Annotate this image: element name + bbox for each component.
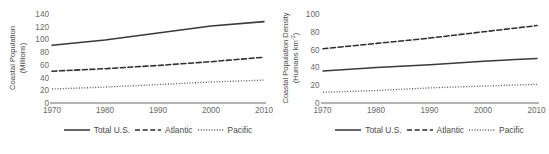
legend-swatch-solid-icon (335, 126, 361, 134)
legend-item-atlantic[interactable]: Atlantic (407, 125, 464, 135)
series-line-atlantic (52, 57, 264, 71)
series-line-pacific (52, 80, 264, 89)
chart-panel-coastal-population: Coastal Population (Millions) 0204060801… (0, 0, 275, 154)
legend-label: Pacific (228, 125, 253, 135)
chart-panel-coastal-population-density: Coastal Population Density (Humans km-2)… (275, 0, 549, 154)
legend-label: Pacific (499, 125, 524, 135)
series-line-atlantic (323, 26, 537, 49)
figure-two-panel-line-charts: Coastal Population (Millions) 0204060801… (0, 0, 549, 154)
legend-item-pacific[interactable]: Pacific (198, 125, 253, 135)
legend-item-atlantic[interactable]: Atlantic (135, 125, 192, 135)
legend-swatch-dashed-icon (135, 126, 161, 134)
legend-item-pacific[interactable]: Pacific (469, 125, 524, 135)
legend-label: Atlantic (165, 125, 192, 135)
legend-right: Total U.S.AtlanticPacific (313, 125, 547, 135)
legend-label: Total U.S. (365, 125, 401, 135)
series-line-total-u-s (52, 22, 264, 46)
legend-swatch-solid-icon (64, 126, 90, 134)
legend-swatch-dotted-icon (469, 126, 495, 134)
legend-label: Total U.S. (94, 125, 130, 135)
legend-swatch-dotted-icon (198, 126, 224, 134)
series-line-pacific (323, 84, 537, 92)
legend-swatch-dashed-icon (407, 126, 433, 134)
legend-item-total-u-s[interactable]: Total U.S. (64, 125, 130, 135)
legend-label: Atlantic (437, 125, 464, 135)
legend-item-total-u-s[interactable]: Total U.S. (335, 125, 401, 135)
legend-left: Total U.S.AtlanticPacific (42, 125, 274, 135)
series-line-total-u-s (323, 59, 537, 71)
